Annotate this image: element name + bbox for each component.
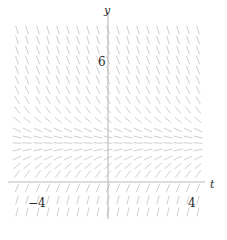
slope-segment [186, 66, 189, 74]
slope-segment [55, 106, 61, 113]
slope-segment [54, 136, 63, 138]
slope-segment [35, 170, 41, 177]
slope-segment [25, 184, 28, 192]
slope-segment [145, 117, 152, 123]
slope-segment [114, 156, 122, 160]
slope-segment [26, 46, 29, 55]
slope-segment [177, 46, 180, 55]
slope-segment [117, 36, 120, 45]
slope-segment [166, 86, 170, 94]
slope-segment [55, 163, 62, 169]
slope-segment [14, 163, 21, 169]
slope-segment [134, 128, 142, 132]
slope-segment [96, 76, 100, 84]
slope-segment [156, 66, 159, 74]
slope-segment [175, 117, 182, 123]
slope-segment [67, 36, 70, 45]
slope-segment [126, 66, 129, 74]
slope-segment [176, 86, 180, 94]
slope-segment [54, 128, 62, 132]
slope-segment [84, 136, 93, 138]
slope-segment [147, 208, 149, 217]
slope-segment [67, 26, 70, 35]
slope-segment [15, 76, 19, 84]
slope-segment [196, 96, 201, 104]
slope-segment [34, 128, 42, 132]
slope-segment [167, 46, 170, 55]
slope-segment [165, 163, 172, 169]
slope-segment [85, 170, 91, 177]
slope-segment [97, 36, 100, 45]
slope-segment [44, 128, 52, 132]
slope-segment [157, 36, 160, 45]
slope-segment [16, 196, 19, 205]
slope-segment [124, 156, 132, 160]
slope-segment [97, 208, 99, 217]
slope-segment [77, 26, 80, 35]
t-axis-label: t [210, 178, 214, 191]
slope-segment [25, 56, 28, 64]
slope-segment [97, 46, 100, 55]
slope-segment [66, 66, 69, 74]
slope-segment [67, 46, 70, 55]
slope-segment [167, 208, 169, 217]
slope-segment [176, 96, 181, 104]
slope-segment [197, 46, 200, 55]
slope-segment [57, 36, 60, 45]
slope-segment [47, 26, 50, 35]
slope-segment [15, 66, 18, 74]
slope-segment [85, 163, 92, 169]
slope-segment [136, 96, 141, 104]
slope-segment [157, 208, 159, 217]
slope-segment [157, 46, 160, 55]
slope-segment [116, 76, 120, 84]
slope-segment [35, 163, 42, 169]
slope-segment [76, 86, 80, 94]
slope-segment [75, 163, 82, 169]
slope-segment [24, 106, 30, 113]
slope-segment [85, 106, 91, 113]
slope-segment [25, 76, 29, 84]
slope-segment [45, 106, 51, 113]
slope-segment [37, 36, 40, 45]
slope-segment [155, 163, 162, 169]
slope-segment [87, 46, 90, 55]
slope-segment [97, 196, 100, 205]
slope-segment [66, 76, 70, 84]
slope-segment [117, 26, 120, 35]
slope-segment [197, 208, 199, 217]
slope-segment [165, 106, 171, 113]
slope-segment [154, 136, 163, 138]
slope-segment [174, 156, 182, 160]
slope-segment [137, 196, 140, 205]
slope-segment [124, 149, 133, 151]
slope-segment [15, 184, 18, 192]
slope-segment [126, 96, 131, 104]
slope-segment [145, 170, 151, 177]
slope-segment [135, 106, 141, 113]
slope-segment [94, 128, 102, 132]
slope-segment [65, 163, 72, 169]
slope-segment [115, 117, 122, 123]
slope-segment [47, 196, 50, 205]
slope-segment [167, 26, 170, 35]
slope-segment [87, 36, 90, 45]
slope-segment [77, 36, 80, 45]
slope-segment [127, 46, 130, 55]
slope-segment [36, 76, 40, 84]
slope-segment [124, 128, 132, 132]
slope-segment [87, 26, 90, 35]
slope-segment [34, 156, 42, 160]
slope-segment [36, 96, 41, 104]
slope-segment [84, 149, 93, 151]
slope-segment [26, 36, 29, 45]
slope-segment [157, 196, 160, 205]
slope-segment [126, 76, 130, 84]
slope-segment [55, 170, 61, 177]
y-tick-label-6: 6 [98, 55, 106, 69]
slope-segment [115, 163, 122, 169]
slope-segment [57, 26, 60, 35]
slope-segment [117, 208, 119, 217]
slope-segment [186, 76, 190, 84]
slope-segment [64, 128, 72, 132]
